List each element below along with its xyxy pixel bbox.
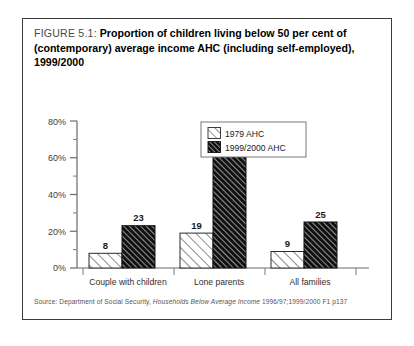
y-tick-label-0: 0% [53,263,66,273]
legend-swatch-1999 [208,142,221,153]
chart-plot-svg: 80% 60% 40% 20% 0% 8 23 [23,81,391,291]
figure-number-label: FIGURE 5.1: [34,27,97,39]
bar-1999-all-families [304,222,337,268]
source-reference: 1996/97;1999/2000 F1 p137 [262,298,347,305]
data-label-25: 25 [315,209,326,220]
source-prefix: Source: Department of Social Security, [34,298,151,305]
legend-label-1979: 1979 AHC [225,129,264,139]
bar-group-lone-parents: 19 61 [180,143,246,268]
bar-1999-lone-parents [213,156,246,268]
x-axis-tick-labels: Couple with children Lone parents All fa… [89,277,330,287]
bar-1979-all-families [271,252,304,269]
y-axis [70,121,77,268]
bar-group-couple-with-children: 8 23 [89,212,155,268]
y-tick-label-60: 60% [48,153,66,163]
bar-1979-couple-with-children [89,253,122,268]
chart-legend: 1979 AHC 1999/2000 AHC [201,122,306,157]
y-tick-label-20: 20% [48,227,66,237]
data-label-9: 9 [285,238,290,249]
data-label-23: 23 [133,212,144,223]
bar-group-all-families: 9 25 [271,209,337,268]
source-publication-title: Households Below Average Income [153,298,260,305]
bar-chart: 80% 60% 40% 20% 0% 8 23 [23,81,391,291]
data-label-8: 8 [103,240,108,251]
legend-swatch-1979 [208,128,221,139]
data-label-19: 19 [191,220,202,231]
y-tick-label-40: 40% [48,190,66,200]
x-tick-label-couple-with-children: Couple with children [89,277,167,287]
legend-label-1999: 1999/2000 AHC [225,143,286,153]
x-tick-label-lone-parents: Lone parents [194,277,244,287]
figure-caption: FIGURE 5.1: Proportion of children livin… [34,26,382,70]
x-axis [77,268,369,275]
figure-container: FIGURE 5.1: Proportion of children livin… [22,18,392,320]
bar-1979-lone-parents [180,233,213,268]
x-tick-label-all-families: All families [289,277,330,287]
source-note: Source: Department of Social Security, H… [34,297,382,306]
y-tick-label-80: 80% [48,117,66,127]
y-axis-tick-labels: 80% 60% 40% 20% 0% [48,117,66,274]
bar-1999-couple-with-children [122,226,155,268]
